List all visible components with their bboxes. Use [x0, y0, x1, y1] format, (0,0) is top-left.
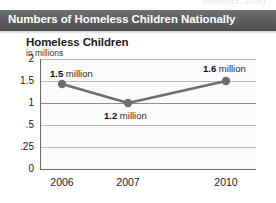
y-tick-label-0: 0	[0, 163, 34, 174]
chart-figure: Homeless, 2005). Numbers of Homeless Chi…	[0, 0, 276, 203]
chart-title: Homeless Children	[26, 36, 128, 48]
x-tick-label-2010: 2010	[204, 176, 248, 188]
banner-title: Numbers of Homeless Children Nationally	[8, 13, 235, 25]
banner-shadow	[0, 31, 276, 34]
gridline-2	[41, 59, 256, 60]
data-label-2006-value: 1.5	[50, 68, 63, 79]
data-label-2007: 1.2 million	[104, 110, 147, 121]
y-tick-label-0_25: .25	[0, 141, 34, 152]
x-tick-label-2006: 2006	[40, 176, 84, 188]
gridline-0_5	[41, 125, 256, 126]
data-label-2006: 1.5 million	[50, 68, 93, 79]
y-tick-label-1_5: 1.5	[0, 75, 34, 86]
data-label-2010-unit: million	[216, 63, 246, 74]
data-label-2007-value: 1.2	[104, 110, 117, 121]
gridline-1_5	[41, 81, 256, 82]
data-label-2006-unit: million	[63, 68, 93, 79]
gridline-0_25	[41, 147, 256, 148]
data-label-2010: 1.6 million	[203, 63, 246, 74]
y-axis-line	[40, 59, 41, 170]
figure-banner: Numbers of Homeless Children Nationally	[0, 10, 276, 31]
x-tick-label-2007: 2007	[106, 176, 150, 188]
x-axis-line	[40, 169, 256, 170]
y-tick-label-2: 2	[0, 53, 34, 64]
cutoff-source-text: Homeless, 2005).	[202, 0, 268, 6]
y-tick-label-0_5: .5	[0, 119, 34, 130]
data-label-2010-value: 1.6	[203, 63, 216, 74]
data-label-2007-unit: million	[117, 110, 147, 121]
gridline-1	[41, 103, 256, 104]
y-tick-label-1: 1	[0, 97, 34, 108]
